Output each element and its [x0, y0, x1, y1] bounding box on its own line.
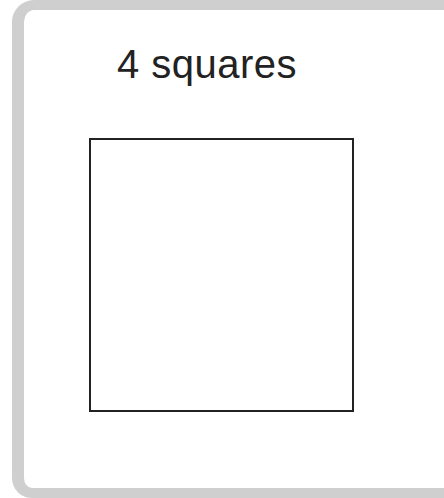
- square-shape: [89, 138, 354, 412]
- card-title: 4 squares: [0, 42, 414, 87]
